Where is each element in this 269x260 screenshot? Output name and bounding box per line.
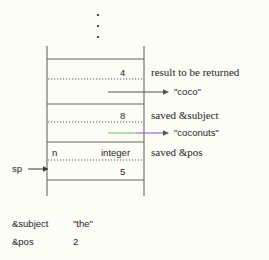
annotation-result-to-be-returned: result to be returned [151,67,239,78]
pointer-arrow-coconuts-head [163,130,169,136]
variable-value-pos: 2 [73,237,78,247]
slot-value-saved-pos: 5 [120,167,125,177]
variable-name-pos: &pos [12,237,34,247]
slot-value-saved-subject: 8 [120,111,125,121]
annotation-saved-pos: saved &pos [151,147,203,158]
variable-value-subject: "the" [73,219,93,229]
pointer-target-coconuts: "coconuts" [174,128,219,138]
variable-name-subject: &subject [12,219,48,229]
pointer-target-coco: "coco" [174,87,201,97]
slot-type-integer: integer [101,148,130,158]
sp-arrow-head [43,166,49,172]
pointer-arrow-coco-head [163,89,169,95]
slot-name-n: n [52,148,57,158]
annotation-saved-subject: saved &subject [151,110,219,121]
slot-value-result: 4 [120,68,125,78]
sp-label: sp [12,164,22,174]
